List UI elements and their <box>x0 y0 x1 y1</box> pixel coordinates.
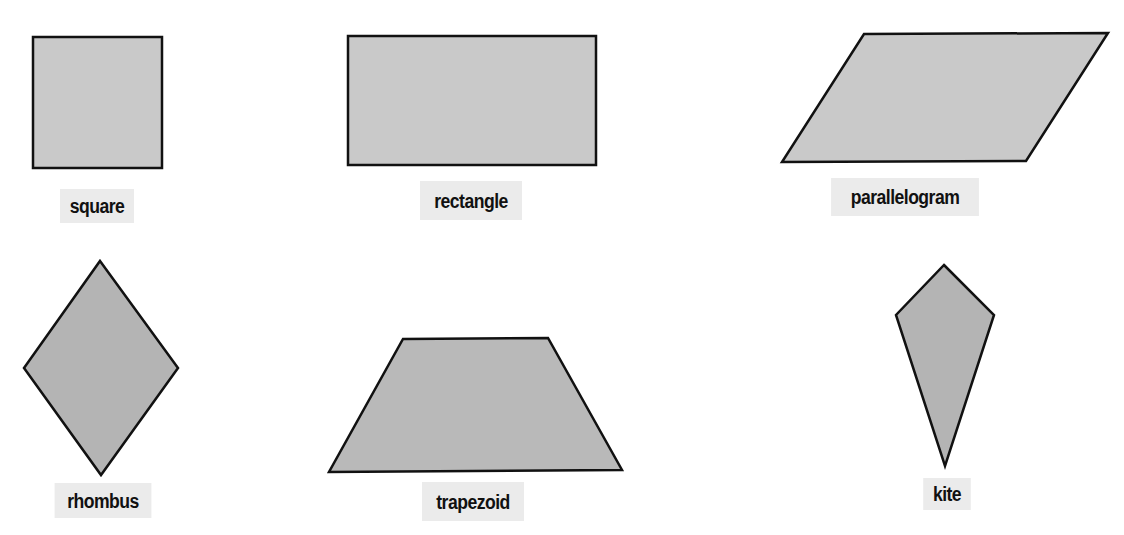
trapezoid-shape <box>329 338 622 472</box>
rectangle-shape <box>348 36 596 165</box>
rhombus-label: rhombus <box>55 483 152 518</box>
rhombus-shape <box>24 261 178 475</box>
kite-shape <box>896 265 994 466</box>
square-shape <box>33 37 162 168</box>
kite-label: kite <box>923 478 971 510</box>
trapezoid-label: trapezoid <box>422 482 524 521</box>
parallelogram-shape <box>782 33 1108 162</box>
parallelogram-label: parallelogram <box>831 178 979 216</box>
quadrilaterals-diagram: square rectangle parallelogram rhombus t… <box>0 0 1124 535</box>
square-label: square <box>60 189 134 223</box>
shapes-layer <box>0 0 1124 535</box>
rectangle-label: rectangle <box>420 181 522 220</box>
